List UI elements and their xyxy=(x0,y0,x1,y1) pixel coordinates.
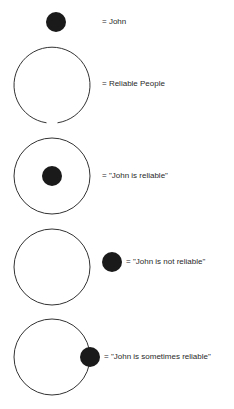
reliable-people-circle xyxy=(14,47,90,123)
reliable-people-circle xyxy=(14,319,90,395)
legend-label-john-reliable: = "John is reliable" xyxy=(102,171,168,180)
john-dot xyxy=(46,12,66,32)
john-dot xyxy=(80,347,100,367)
legend-label-john-not-reliable: = "John is not reliable" xyxy=(126,257,205,266)
john-dot xyxy=(42,166,62,186)
legend-label-john: = John xyxy=(102,17,126,26)
legend-label-john-sometimes-reliable: = "John is sometimes reliable" xyxy=(104,352,211,361)
john-dot xyxy=(102,252,122,272)
reliable-people-circle xyxy=(14,229,90,305)
legend-label-reliable-people: = Reliable People xyxy=(102,79,165,88)
venn-legend-diagram xyxy=(0,0,234,409)
